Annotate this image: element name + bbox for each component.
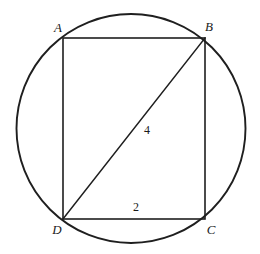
diagonal-db — [63, 38, 205, 219]
geometry-canvas — [0, 0, 260, 254]
measure-label-base: 2 — [133, 201, 139, 213]
measure-label-diagonal: 4 — [144, 124, 150, 136]
vertex-label-c: C — [207, 223, 216, 236]
vertex-label-a: A — [54, 21, 62, 34]
circumscribed-circle — [17, 14, 246, 243]
vertex-label-b: B — [205, 20, 213, 33]
vertex-label-d: D — [52, 223, 61, 236]
geometry-figure: A B C D 4 2 — [0, 0, 260, 254]
